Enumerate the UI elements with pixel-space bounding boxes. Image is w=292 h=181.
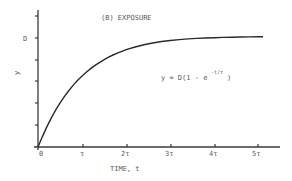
x-tick-label-5: 5τ (252, 150, 260, 158)
y-tick-label-d: D (23, 35, 27, 43)
x-tick-label-1: τ (80, 150, 84, 158)
x-tick-label-0: 0 (39, 150, 43, 158)
x-tick-label-4: 4τ (209, 150, 217, 158)
x-axis-label: TIME, t (110, 165, 140, 173)
exposure-curve-line (38, 37, 263, 147)
chart-title: (B) EXPOSURE (101, 14, 152, 22)
exposure-chart: (B) EXPOSURE D y y = D(1 - e -t/τ ) 0 τ … (0, 0, 292, 181)
y-axis-label: y (13, 71, 21, 75)
svg-text:): ) (227, 74, 231, 82)
x-tick-label-3: 3τ (165, 150, 173, 158)
equation-label: y = D(1 - e -t/τ ) (161, 69, 231, 82)
svg-text:y = D(1 - e: y = D(1 - e (161, 74, 207, 82)
svg-text:-t/τ: -t/τ (211, 69, 223, 75)
x-tick-label-2: 2τ (121, 150, 129, 158)
